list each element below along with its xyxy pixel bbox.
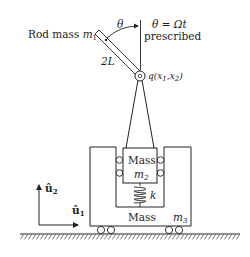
pivot-coordinate-label: q(x1,x2) bbox=[148, 71, 183, 83]
length-label: 2L bbox=[100, 55, 115, 67]
pivot-support bbox=[126, 80, 154, 148]
axis-u2-label: û2 bbox=[45, 182, 58, 196]
spring-constant-label: k bbox=[150, 189, 156, 201]
rod bbox=[95, 30, 142, 77]
axis-u1-label: û1 bbox=[72, 204, 85, 218]
prescribed-label: prescribed bbox=[144, 30, 202, 42]
rod-cart-spring-diagram: Rod mass m1 θ θ = Ωt prescribed 2L q(x1,… bbox=[0, 0, 250, 257]
angle-symbol-label: θ bbox=[117, 18, 124, 30]
inner-mass-label: Mass bbox=[128, 154, 156, 166]
wheel-icon bbox=[175, 226, 182, 233]
pivot-joint bbox=[135, 71, 145, 81]
rod-mass-label: Rod mass m1 bbox=[28, 28, 97, 42]
roller-icon bbox=[116, 170, 123, 177]
outer-mass-label: Mass bbox=[128, 211, 156, 223]
outer-mass-symbol: m3 bbox=[173, 211, 188, 225]
angle-equation-label: θ = Ωt bbox=[152, 18, 188, 30]
ground bbox=[20, 234, 240, 240]
wheel-icon bbox=[107, 226, 114, 233]
roller-icon bbox=[157, 157, 164, 164]
wheel-icon bbox=[165, 226, 172, 233]
spring-icon bbox=[134, 183, 146, 207]
cart-wheels bbox=[97, 226, 182, 233]
rod-center-dot bbox=[105, 39, 107, 41]
wheel-icon bbox=[97, 226, 104, 233]
roller-icon bbox=[157, 170, 164, 177]
roller-icon bbox=[116, 157, 123, 164]
